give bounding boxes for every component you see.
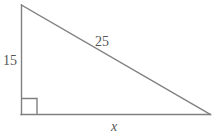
label-base: x bbox=[111, 120, 117, 134]
label-vertical-leg: 15 bbox=[3, 54, 17, 68]
triangle-drawing bbox=[0, 0, 218, 135]
label-hypotenuse: 25 bbox=[95, 35, 109, 49]
right-angle-marker-icon bbox=[22, 99, 38, 115]
triangle-side-hypotenuse bbox=[22, 5, 211, 115]
right-triangle-figure: 15 25 x bbox=[0, 0, 218, 135]
